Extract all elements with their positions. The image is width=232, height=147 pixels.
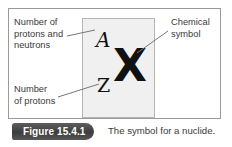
atomic-number-symbol: Z — [97, 76, 110, 95]
annotation-chemical-symbol: Chemical symbol — [171, 17, 219, 40]
annotation-atomic-number: Number of protons — [14, 84, 72, 107]
figure-caption-row: Figure 15.4.1 The symbol for a nuclide. — [8, 122, 221, 142]
figure-caption-text: The symbol for a nuclide. — [108, 125, 215, 136]
element-symbol: X — [113, 44, 146, 88]
figure-nuclide-symbol: A Z X Number of protons and neutrons Num… — [0, 0, 232, 147]
annotation-mass-number: Number of protons and neutrons — [14, 17, 72, 52]
mass-number-symbol: A — [96, 30, 110, 50]
figure-number-badge: Figure 15.4.1 — [12, 123, 94, 140]
